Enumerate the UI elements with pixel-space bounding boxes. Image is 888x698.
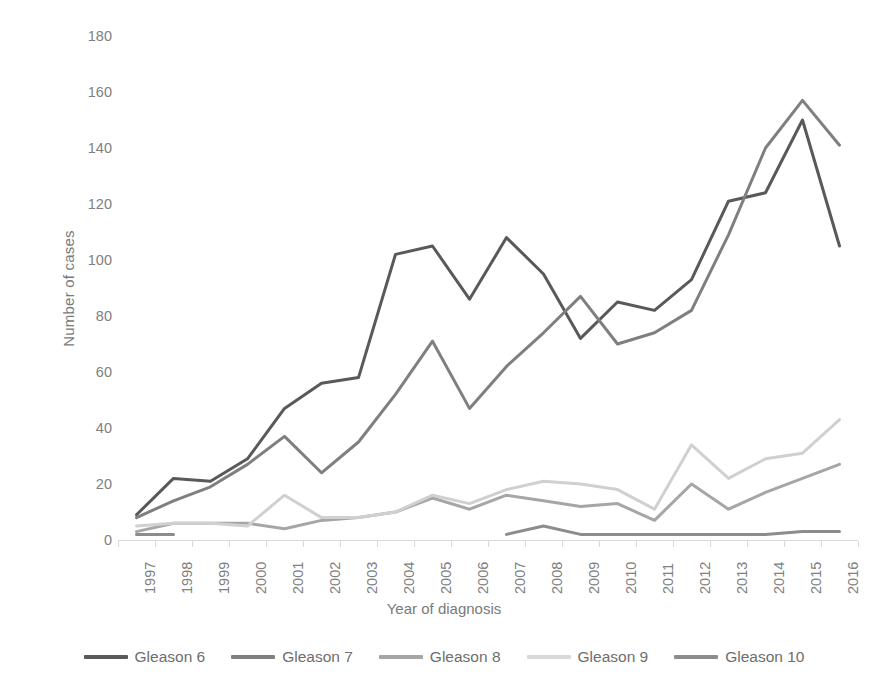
line-chart: Number of cases 020406080100120140160180… — [0, 0, 888, 698]
x-axis-tick-mark — [488, 541, 489, 547]
x-axis-tick-mark — [192, 541, 193, 547]
x-axis-tick-label: 1998 — [180, 562, 195, 594]
legend-label: Gleason 7 — [282, 648, 353, 666]
y-axis-tick-label: 140 — [68, 141, 112, 156]
x-axis-tick-mark — [525, 541, 526, 547]
legend-item[interactable]: Gleason 7 — [231, 648, 353, 666]
x-axis-tick-mark — [636, 541, 637, 547]
x-axis-tick-label: 1999 — [217, 562, 232, 594]
legend-swatch-icon — [84, 655, 128, 659]
x-axis-tick-mark — [266, 541, 267, 547]
x-axis-tick-label: 2015 — [809, 562, 824, 594]
legend-swatch-icon — [231, 655, 275, 659]
x-axis-tick-label: 2012 — [698, 562, 713, 594]
x-axis-tick-mark — [599, 541, 600, 547]
x-axis-tick-mark — [155, 541, 156, 547]
y-axis-tick-label: 60 — [68, 365, 112, 380]
legend-swatch-icon — [527, 655, 571, 659]
legend-item[interactable]: Gleason 10 — [674, 648, 804, 666]
legend-item[interactable]: Gleason 8 — [379, 648, 501, 666]
y-axis-tick-labels: 020406080100120140160180 — [68, 30, 112, 546]
legend-label: Gleason 6 — [135, 648, 206, 666]
y-axis-tick-label: 160 — [68, 85, 112, 100]
x-axis-tick-label: 2016 — [846, 562, 861, 594]
legend-label: Gleason 9 — [578, 648, 649, 666]
y-axis-tick-label: 80 — [68, 309, 112, 324]
y-axis-tick-label: 100 — [68, 253, 112, 268]
x-axis-tick-mark — [784, 541, 785, 547]
legend-swatch-icon — [379, 655, 423, 659]
x-axis-tick-mark — [118, 541, 119, 547]
x-axis-tick-label: 2011 — [661, 563, 676, 594]
x-axis-tick-label: 2009 — [587, 562, 602, 594]
x-axis-tick-label: 2003 — [365, 562, 380, 594]
y-axis-tick-label: 20 — [68, 477, 112, 492]
y-axis-tick-label: 40 — [68, 421, 112, 436]
x-axis-tick-label: 2007 — [513, 562, 528, 594]
x-axis-tick-label: 1997 — [143, 562, 158, 594]
y-axis-tick-label: 120 — [68, 197, 112, 212]
legend-label: Gleason 10 — [725, 648, 804, 666]
x-axis-tick-mark — [562, 541, 563, 547]
x-axis-tick-label: 2001 — [291, 562, 306, 594]
x-axis-tick-mark — [414, 541, 415, 547]
x-axis-tick-mark — [229, 541, 230, 547]
x-axis-tick-mark — [710, 541, 711, 547]
plot-area — [118, 36, 858, 540]
x-axis-tick-label: 2010 — [624, 562, 639, 594]
x-axis-tick-label: 2004 — [402, 562, 417, 594]
x-axis-tick-label: 2002 — [328, 562, 343, 594]
chart-legend: Gleason 6Gleason 7Gleason 8Gleason 9Glea… — [0, 648, 888, 666]
x-axis-title: Year of diagnosis — [0, 600, 888, 617]
x-axis-tick-mark — [303, 541, 304, 547]
y-axis-tick-label: 0 — [68, 533, 112, 548]
x-axis-tick-label: 2000 — [254, 562, 269, 594]
series-line — [137, 120, 840, 515]
x-axis-tick-label: 2014 — [772, 562, 787, 594]
x-axis-tick-mark — [821, 541, 822, 547]
series-line — [507, 526, 840, 534]
x-axis-tick-mark — [451, 541, 452, 547]
legend-swatch-icon — [674, 655, 718, 659]
x-axis-tick-mark — [673, 541, 674, 547]
x-axis-tick-label: 2013 — [735, 562, 750, 594]
x-axis-tick-labels: 1997199819992000200120022003200420052006… — [118, 548, 858, 604]
series-lines — [118, 36, 858, 540]
series-line — [137, 420, 840, 526]
legend-item[interactable]: Gleason 9 — [527, 648, 649, 666]
y-axis-tick-label: 180 — [68, 29, 112, 44]
legend-label: Gleason 8 — [430, 648, 501, 666]
x-axis-tick-label: 2006 — [476, 562, 491, 594]
x-axis-tick-label: 2008 — [550, 562, 565, 594]
x-axis-tick-mark — [340, 541, 341, 547]
x-axis-tick-mark — [747, 541, 748, 547]
x-axis-tick-mark — [377, 541, 378, 547]
x-axis-tick-mark — [858, 541, 859, 547]
series-line — [137, 100, 840, 517]
x-axis-tick-label: 2005 — [439, 562, 454, 594]
legend-item[interactable]: Gleason 6 — [84, 648, 206, 666]
